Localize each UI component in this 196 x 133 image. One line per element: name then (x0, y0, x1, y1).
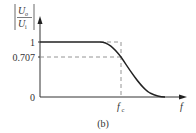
lowpass-response-diagram: U o U i 1 0.707 0 f c f (b) (0, 0, 196, 133)
reference-lines (40, 42, 121, 97)
y-axis-label: U o U i (15, 4, 34, 30)
y-tick-0: 0 (30, 92, 35, 103)
response-curve (40, 42, 165, 97)
x-tick-fc-sub: c (122, 106, 125, 113)
denominator-sub: i (25, 24, 27, 30)
x-axis-arrow-icon (179, 95, 187, 100)
y-tick-0707: 0.707 (13, 52, 36, 63)
numerator-sub: o (25, 11, 28, 17)
y-tick-1: 1 (30, 37, 35, 48)
x-axis-label: f (180, 101, 184, 112)
axes (38, 16, 188, 100)
x-tick-fc: f (117, 101, 121, 112)
y-axis-arrow-icon (38, 16, 43, 24)
figure-caption: (b) (97, 118, 109, 130)
